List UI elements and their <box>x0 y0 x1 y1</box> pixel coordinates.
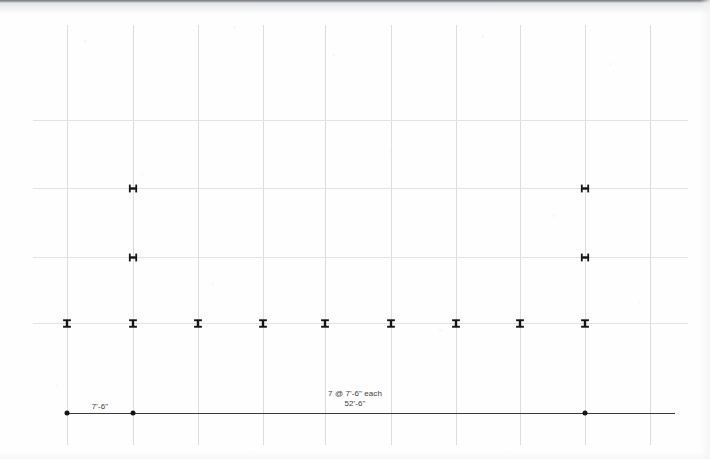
column-upper-right-icon <box>581 179 590 197</box>
beam-9-icon <box>581 314 590 332</box>
beam-7-icon <box>452 314 461 332</box>
gridline-vertical-2 <box>133 25 134 445</box>
beam-5-icon <box>321 314 330 332</box>
column-mid-left-icon <box>129 248 138 266</box>
gridline-vertical-8 <box>520 25 521 445</box>
gridline-vertical-3 <box>198 25 199 445</box>
gridline-vertical-4 <box>263 25 264 445</box>
beam-4-icon <box>259 314 268 332</box>
column-upper-left-icon <box>129 179 138 197</box>
gridline-horizontal-1 <box>33 120 688 121</box>
beam-3-icon <box>194 314 203 332</box>
dimension-label-left-bay: 7'-6" <box>92 402 108 411</box>
gridline-vertical-9 <box>585 25 586 445</box>
dimension-label-overall: 7 @ 7'-6" each 52'-6" <box>328 389 382 409</box>
dimension-point-1 <box>65 411 70 416</box>
gridline-vertical-10 <box>650 25 651 445</box>
dimension-point-3 <box>583 411 588 416</box>
scan-bottom-edge-artifact <box>0 451 710 459</box>
dimension-label-total-length: 52'-6" <box>328 399 382 409</box>
dimension-label-typical-bay: 7 @ 7'-6" each <box>328 389 382 399</box>
scan-top-shadow-artifact <box>0 3 710 14</box>
dimension-point-2 <box>131 411 136 416</box>
beam-8-icon <box>516 314 525 332</box>
beam-2-icon <box>129 314 138 332</box>
column-mid-right-icon <box>581 248 590 266</box>
gridline-vertical-5 <box>325 25 326 445</box>
beam-6-icon <box>387 314 396 332</box>
beam-1-icon <box>63 314 72 332</box>
gridline-vertical-7 <box>456 25 457 445</box>
gridline-vertical-6 <box>391 25 392 445</box>
drawing-sheet: 7'-6" 7 @ 7'-6" each 52'-6" <box>0 0 710 459</box>
scan-right-edge-artifact <box>700 0 710 459</box>
gridline-vertical-1 <box>67 25 68 445</box>
